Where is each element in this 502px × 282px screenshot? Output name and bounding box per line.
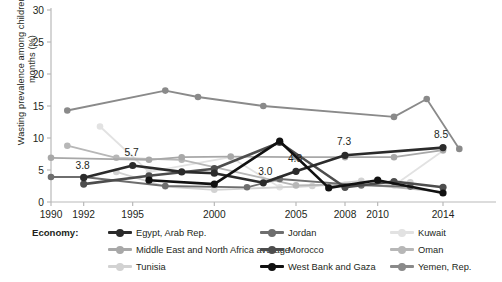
data-point <box>113 155 120 162</box>
legend-item-egypt-arab-rep[interactable]: Egypt, Arab Rep. <box>108 228 260 238</box>
x-tick-label: 1992 <box>72 209 95 220</box>
chart-legend: Economy: Egypt, Arab Rep.Middle East and… <box>0 222 502 282</box>
data-point <box>97 123 104 130</box>
legend-swatch-icon <box>260 245 284 254</box>
y-tick-label: 5 <box>38 165 44 176</box>
data-point <box>391 114 398 121</box>
legend-marker-dot <box>268 263 276 271</box>
data-point <box>48 155 55 162</box>
data-label: 5.7 <box>125 147 139 158</box>
wasting-prevalence-line-chart: Wasting prevalence among children 0–59 m… <box>0 0 502 282</box>
x-tick-label: 2014 <box>432 209 455 220</box>
legend-item-jordan[interactable]: Jordan <box>260 228 390 238</box>
legend-swatch-icon <box>390 245 414 254</box>
data-point <box>129 162 136 169</box>
legend-item-label: Yemen, Rep. <box>418 262 471 272</box>
legend-swatch-icon <box>390 228 414 237</box>
y-tick-label: 0 <box>38 197 44 208</box>
legend-swatch-icon <box>260 228 284 237</box>
data-label: 4.8 <box>288 153 302 164</box>
legend-swatch-icon <box>390 262 414 271</box>
data-label: 8.5 <box>434 129 448 140</box>
legend-item-oman[interactable]: Oman <box>390 245 502 255</box>
legend-item-label: Oman <box>418 245 443 255</box>
legend-item-label: Egypt, Arab Rep. <box>136 228 206 238</box>
legend-swatch-icon <box>260 262 284 271</box>
data-point <box>48 174 55 181</box>
data-point <box>276 138 283 145</box>
legend-swatch-icon <box>108 262 132 271</box>
data-point <box>178 168 185 175</box>
data-point <box>80 174 87 181</box>
data-point <box>325 184 332 191</box>
data-point <box>145 177 152 184</box>
data-point <box>341 152 348 159</box>
legend-marker-dot <box>398 263 406 271</box>
legend-item-label: Jordan <box>288 228 316 238</box>
legend-item-west-bank-and-gaza[interactable]: West Bank and Gaza <box>260 262 390 272</box>
x-tick-label: 2010 <box>366 209 389 220</box>
data-point <box>423 96 430 103</box>
series-yemen-rep <box>64 87 463 152</box>
data-point <box>260 179 267 186</box>
x-tick-label: 2000 <box>203 209 226 220</box>
legend-marker-dot <box>116 263 124 271</box>
legend-item-label: Kuwait <box>418 228 446 238</box>
data-point <box>227 153 234 160</box>
data-point <box>211 170 218 177</box>
data-point <box>64 142 71 149</box>
data-point <box>244 184 251 191</box>
legend-marker-dot <box>116 229 124 237</box>
data-point <box>146 157 153 164</box>
data-point <box>64 107 71 114</box>
plot-area: Wasting prevalence among children 0–59 m… <box>0 0 502 222</box>
legend-item-yemen-rep[interactable]: Yemen, Rep. <box>390 262 502 272</box>
legend-swatch-icon <box>108 245 132 254</box>
legend-marker-dot <box>398 229 406 237</box>
data-point <box>374 177 381 184</box>
x-tick-label: 2005 <box>285 209 308 220</box>
data-point <box>162 183 169 190</box>
data-point <box>391 154 398 161</box>
chart-svg: 0510152025301990199219952000200520082010… <box>0 0 502 222</box>
legend-item-middle-east-and-north-africa-average[interactable]: Middle East and North Africa average <box>108 245 260 255</box>
legend-items: Egypt, Arab Rep.Middle East and North Af… <box>108 224 502 275</box>
data-point <box>211 181 218 188</box>
data-point <box>456 146 463 153</box>
data-point <box>439 189 446 196</box>
legend-marker-dot <box>268 229 276 237</box>
data-point <box>80 181 87 188</box>
data-point <box>292 168 299 175</box>
series-line <box>67 91 459 149</box>
legend-marker-dot <box>268 246 276 254</box>
legend-item-label: Morocco <box>288 245 324 255</box>
data-point <box>439 144 446 151</box>
data-label: 3.8 <box>76 160 90 171</box>
x-tick-label: 1995 <box>121 209 144 220</box>
x-tick-label: 1990 <box>40 209 63 220</box>
legend-swatch-icon <box>108 228 132 237</box>
data-point <box>260 103 267 110</box>
legend-marker-dot <box>398 246 406 254</box>
legend-item-label: Tunisia <box>136 262 166 272</box>
legend-item-label: West Bank and Gaza <box>288 262 376 272</box>
legend-item-morocco[interactable]: Morocco <box>260 245 390 255</box>
y-axis-title: Wasting prevalence among children 0–59 m… <box>16 0 38 154</box>
data-point <box>195 94 202 101</box>
legend-item-tunisia[interactable]: Tunisia <box>108 262 260 272</box>
data-label: 7.3 <box>337 136 351 147</box>
x-tick-label: 2008 <box>334 209 357 220</box>
legend-item-kuwait[interactable]: Kuwait <box>390 228 502 238</box>
data-point <box>178 154 185 161</box>
legend-marker-dot <box>116 246 124 254</box>
data-label: 3.0 <box>258 166 272 177</box>
data-point <box>162 87 169 94</box>
legend-title: Economy: <box>32 227 78 238</box>
data-point <box>293 182 300 189</box>
